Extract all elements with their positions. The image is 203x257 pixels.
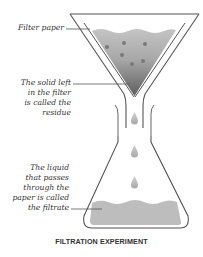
droplets: [131, 112, 138, 189]
filter-paper-label: Filter paper: [14, 23, 64, 33]
filtrate-label: The liquid that passes through the paper…: [4, 163, 69, 213]
droplet-3: [131, 176, 138, 189]
residue-label: The solid left in the filter is called t…: [4, 78, 71, 118]
droplet-1: [131, 112, 138, 125]
droplet-2: [131, 145, 138, 158]
filtration-diagram: [0, 0, 203, 257]
diagram-title: FILTRATION EXPERIMENT: [0, 237, 203, 246]
residue: [92, 29, 176, 96]
filtrate: [90, 200, 181, 225]
